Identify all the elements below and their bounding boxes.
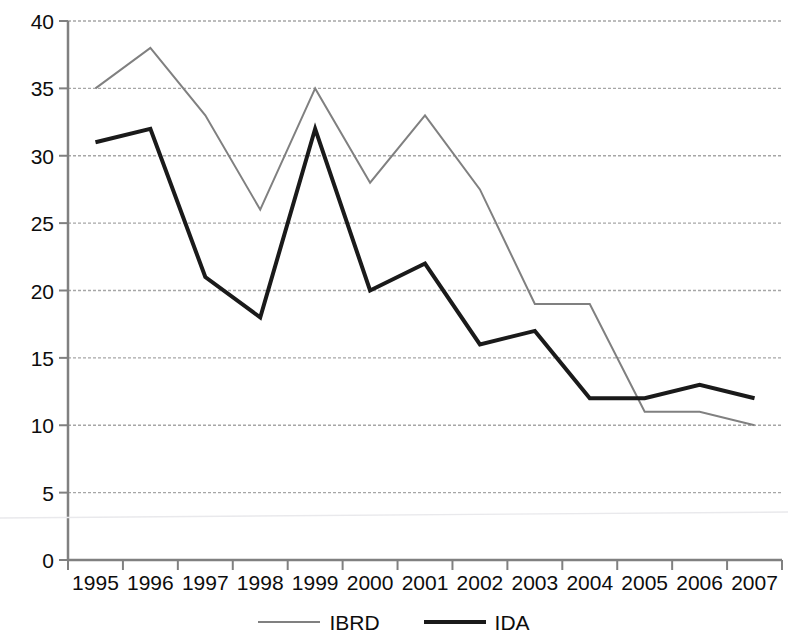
chart-legend: IBRD IDA [0, 606, 788, 638]
x-tick-label: 1998 [237, 572, 284, 593]
legend-entry-ida: IDA [424, 612, 530, 633]
legend-line-ibrd-icon [258, 621, 320, 623]
gridlines [68, 21, 782, 493]
x-tick-label: 2001 [402, 572, 449, 593]
x-tick-label: 2000 [347, 572, 394, 593]
x-tick-label: 1995 [72, 572, 119, 593]
series-line-ibrd [95, 48, 754, 425]
x-tick-label: 2007 [731, 572, 778, 593]
x-tick-label: 1999 [292, 572, 339, 593]
legend-label-ibrd: IBRD [329, 612, 379, 633]
data-series [95, 48, 754, 425]
x-tick-label: 2004 [566, 572, 613, 593]
legend-entry-ibrd: IBRD [258, 612, 379, 633]
x-tick-label: 1996 [127, 572, 174, 593]
line-chart: 40 35 30 25 20 15 10 5 0 199519961997199… [0, 0, 788, 638]
x-tick-label: 2002 [457, 572, 504, 593]
x-tick-label: 2003 [511, 572, 558, 593]
x-axis-tick-labels: 1995199619971998199920002001200220032004… [0, 572, 788, 606]
legend-line-ida-icon [424, 620, 486, 624]
y-axis-ticks [59, 21, 68, 560]
x-tick-label: 2006 [676, 572, 723, 593]
x-tick-label: 2005 [621, 572, 668, 593]
legend-label-ida: IDA [495, 612, 530, 633]
x-axis-ticks [68, 560, 782, 570]
x-tick-label: 1997 [182, 572, 229, 593]
plot-area [0, 0, 788, 638]
